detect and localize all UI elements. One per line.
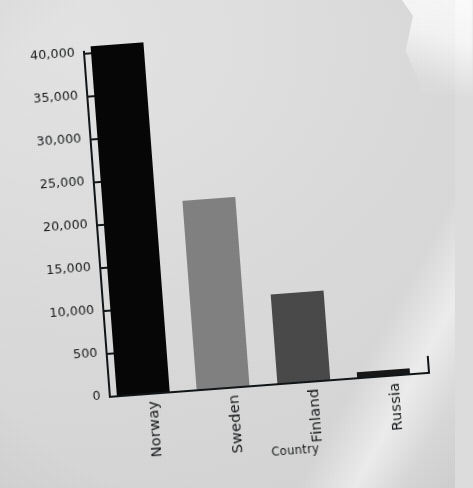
y-tick-label: 25,000 [0,175,85,194]
bar-sweden[interactable] [183,197,250,390]
x-tick-label-norway: Norway [145,400,165,458]
y-tick-label: 30,000 [0,132,82,151]
y-tick-group-5: 15,000 [0,267,99,274]
x-axis-title: Country [271,441,320,459]
y-tick-group-8: 0 [9,396,109,403]
y-tick-label: 10,000 [10,304,95,323]
y-tick-label: 20,000 [4,218,89,237]
x-tick-label-finland: Finland [305,388,325,443]
y-tick-label: 40,000 [0,47,75,66]
bar-chart: 40,000 35,000 30,000 25,000 20,000 15,00… [0,0,470,488]
y-tick-group-0: 40,000 [0,53,83,60]
y-tick-label: 15,000 [7,261,92,280]
bar-norway[interactable] [90,42,169,395]
bars-group [83,27,430,396]
y-tick-label: 500 [13,347,98,366]
y-tick-label: 35,000 [0,89,79,108]
x-tick-label-russia: Russia [385,382,405,432]
y-tick-group-6: 10,000 [3,310,103,317]
y-tick-group-7: 500 [6,353,106,360]
y-tick-label: 0 [17,390,102,409]
y-tick-group-1: 35,000 [0,96,86,103]
y-tick-group-3: 25,000 [0,182,93,189]
y-tick-group-2: 30,000 [0,139,89,146]
y-tick-group-4: 20,000 [0,224,96,231]
x-tick-label-sweden: Sweden [225,394,245,454]
bar-finland[interactable] [270,291,330,383]
